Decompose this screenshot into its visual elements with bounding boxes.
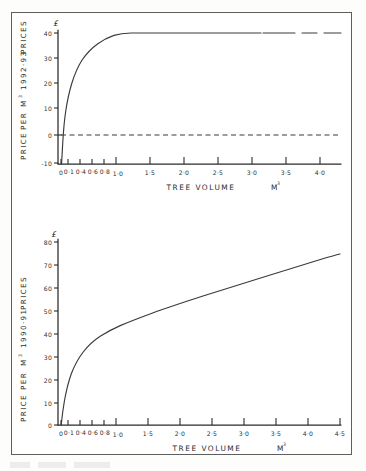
top-xlabel-3-0: 3·0 xyxy=(247,169,257,176)
bottom-ylabel-10: 10 xyxy=(44,400,52,407)
bottom-xlabel-0-6: 0·6 xyxy=(88,429,98,436)
bottom-xlabel-2-5: 2·5 xyxy=(207,430,217,437)
bottom-ylabel-years: 1990·91 xyxy=(19,308,28,348)
bottom-x-axis-unit-sup: 3 xyxy=(283,442,286,447)
top-ylabel-20: 20 xyxy=(44,80,52,87)
bottom-xlabel-3-5: 3·5 xyxy=(271,430,281,437)
top-xlabel-0-6: 0·6 xyxy=(88,168,98,175)
bottom-xlabel-2-0: 2·0 xyxy=(175,430,185,437)
top-xlabel-0-1: 0·1 xyxy=(64,168,74,175)
bottom-ylabel-unit: M xyxy=(19,358,28,366)
top-ylabel-0: 0 xyxy=(48,132,52,139)
top-ylabel-minus10: -10 xyxy=(41,160,52,167)
page-bottom-faint-text xyxy=(10,462,138,468)
bottom-y-axis-title: PRICE PER M 3 1990·91 PRICES xyxy=(18,276,28,422)
bottom-ylabel-30: 30 xyxy=(44,354,52,361)
top-ylabel-unit-sup: 3 xyxy=(18,95,23,98)
top-xlabel-2-0: 2·0 xyxy=(179,169,189,176)
bottom-ylabel-prices: PRICES xyxy=(19,276,28,310)
top-ylabel-unit: M xyxy=(19,99,28,107)
bottom-xlabel-0: 0 xyxy=(59,430,63,437)
top-xlabel-0-4: 0·4 xyxy=(76,168,86,175)
bottom-currency-symbol: £ xyxy=(51,230,56,239)
top-xlabel-1-5: 1·5 xyxy=(145,169,155,176)
top-ylabel-40: 40 xyxy=(44,30,52,37)
bottom-xlabel-3-0: 3·0 xyxy=(239,430,249,437)
bottom-xlabel-0-1: 0·1 xyxy=(64,429,74,436)
top-xlabel-1-0: 1·0 xyxy=(113,170,123,177)
bottom-xlabel-4-0: 4·0 xyxy=(303,430,313,437)
bottom-xlabel-4-5: 4·5 xyxy=(335,430,345,437)
top-ylabel-price: PRICE xyxy=(19,132,28,160)
top-currency-symbol: £ xyxy=(53,19,58,28)
top-price-curve xyxy=(62,33,262,164)
bottom-x-axis-title: TREE VOLUME xyxy=(172,444,242,453)
top-ylabel-prices: PRICES xyxy=(19,20,28,54)
bottom-ylabel-price: PRICE xyxy=(19,394,28,422)
chart-top-1992-93: 40 30 20 10 0 -10 £ 0 0·1 0·4 0· xyxy=(11,12,352,217)
top-xlabel-4-0: 4·0 xyxy=(315,169,325,176)
bottom-ylabel-60: 60 xyxy=(44,285,52,292)
bottom-ylabel-80: 80 xyxy=(44,239,52,246)
figure-page: 40 30 20 10 0 -10 £ 0 0·1 0·4 0· xyxy=(0,0,366,471)
top-y-axis-title: PRICE PER M 3 1992·93 PRICES xyxy=(18,20,28,160)
bottom-ylabel-50: 50 xyxy=(44,308,52,315)
top-xlabel-2-5: 2·5 xyxy=(213,169,223,176)
chart-bottom-1990-91: 80 70 60 50 40 30 20 10 0 £ xyxy=(11,217,352,455)
top-xlabel-3-5: 3·5 xyxy=(281,169,291,176)
top-xlabel-0: 0 xyxy=(59,169,63,176)
bottom-ylabel-unit-sup: 3 xyxy=(18,354,23,357)
bottom-ylabel-0: 0 xyxy=(48,422,52,429)
bottom-ylabel-per: PER xyxy=(19,372,28,390)
bottom-xlabel-1-5: 1·5 xyxy=(143,430,153,437)
top-x-axis-title: TREE VOLUME xyxy=(166,183,236,192)
bottom-ylabel-40: 40 xyxy=(44,331,52,338)
bottom-xlabel-0-4: 0·4 xyxy=(76,429,86,436)
bottom-ylabel-70: 70 xyxy=(44,262,52,269)
top-xlabel-0-8: 0·8 xyxy=(100,168,110,175)
top-x-axis-unit-sup: 3 xyxy=(277,181,280,186)
chart-bottom-svg: 80 70 60 50 40 30 20 10 0 £ xyxy=(11,217,352,455)
top-ylabel-30: 30 xyxy=(44,55,52,62)
top-ylabel-per: PER xyxy=(19,112,28,130)
bottom-xlabel-0-8: 0·8 xyxy=(100,429,110,436)
bottom-ylabel-20: 20 xyxy=(44,377,52,384)
chart-top-svg: 40 30 20 10 0 -10 £ 0 0·1 0·4 0· xyxy=(11,12,352,217)
top-ylabel-years: 1992·93 xyxy=(19,50,28,90)
top-ylabel-10: 10 xyxy=(44,105,52,112)
bottom-xlabel-1-0: 1·0 xyxy=(113,431,123,438)
bottom-price-curve xyxy=(61,254,340,425)
